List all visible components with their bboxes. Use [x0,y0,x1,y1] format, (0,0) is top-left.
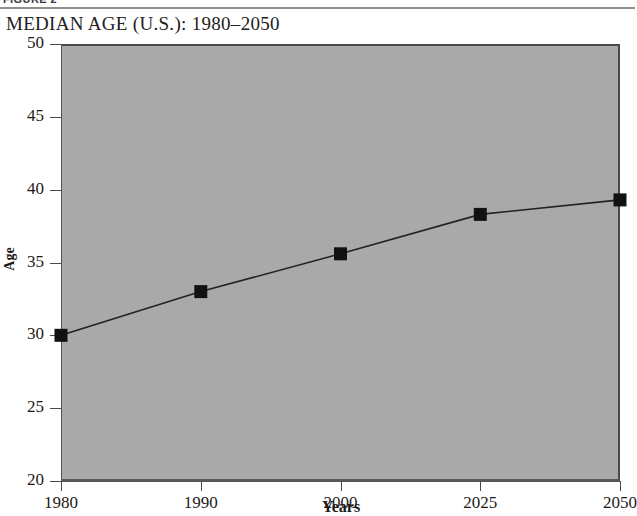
y-tick-label: 40 [0,179,44,199]
y-tick-mark [50,190,61,191]
y-tick-label-wrap: 45 [0,106,44,126]
header-divider [0,7,635,9]
y-tick-label-wrap: 30 [0,324,44,344]
chart-title: MEDIAN AGE (U.S.): 1980–2050 [6,13,280,35]
x-axis-title: Years [61,498,621,516]
y-tick-label: 45 [0,106,44,126]
x-tick-mark [201,482,202,491]
y-tick-label-wrap: 25 [0,397,44,417]
y-tick-mark [50,44,61,45]
x-tick-mark [341,482,342,491]
y-axis-title: Age [2,236,18,282]
y-tick-label: 20 [0,470,44,490]
y-tick-label: 50 [0,33,44,53]
y-tick-label-wrap: 50 [0,33,44,53]
plot-area [61,44,620,481]
y-tick-label: 30 [0,324,44,344]
figure-number-label: FIGURE 2 [3,0,57,5]
y-tick-label: 25 [0,397,44,417]
y-tick-mark [50,481,61,482]
y-tick-mark [50,117,61,118]
y-axis-line [61,44,62,483]
y-tick-mark [50,335,61,336]
y-tick-mark [50,408,61,409]
x-tick-mark [480,482,481,491]
y-tick-label-wrap: 20 [0,470,44,490]
y-tick-label-wrap: 40 [0,179,44,199]
x-tick-mark [620,482,621,491]
x-tick-mark [61,482,62,491]
y-tick-mark [50,263,61,264]
